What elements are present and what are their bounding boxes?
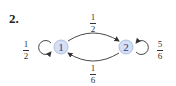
edge-1-self-loop [39,41,51,55]
edge-2-self-loop [136,41,148,55]
node-2-label: 2 [123,41,129,53]
edge-2-to-1 [68,53,119,61]
node-1-label: 1 [58,41,64,53]
edge-label-1-to-2: 12 [90,13,96,34]
edge-label-2-self: 56 [157,40,163,61]
edge-label-2-to-1: 16 [90,64,96,85]
edge-1-to-2 [68,33,119,41]
edge-label-1-self: 12 [23,40,29,61]
